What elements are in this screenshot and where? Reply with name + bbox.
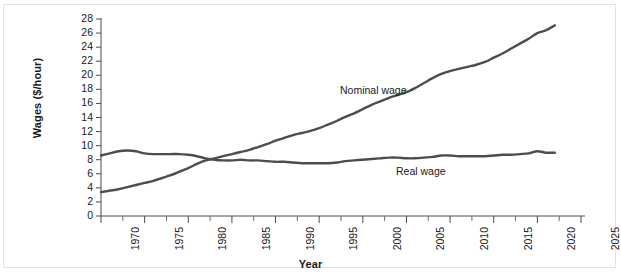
- y-tick-label: 28: [67, 12, 93, 24]
- y-tick-label: 18: [67, 82, 93, 94]
- y-axis-ticks: [96, 19, 101, 216]
- x-axis-ticks: [101, 216, 581, 223]
- y-axis-title: Wages ($/hour): [31, 33, 43, 163]
- series-label-nominal-wage: Nominal wage: [340, 84, 407, 96]
- y-tick-label: 2: [67, 195, 93, 207]
- y-tick-label: 10: [67, 139, 93, 151]
- x-tick-label: 1990: [304, 227, 316, 250]
- series-label-real-wage: Real wage: [396, 165, 446, 177]
- x-tick-label: 2010: [478, 227, 490, 250]
- x-tick-label: 2025: [609, 227, 621, 250]
- data-series-lines: [101, 25, 555, 192]
- x-tick-label: 2005: [435, 227, 447, 250]
- chart-figure: 0246810121416182022242628 19701975198019…: [0, 0, 621, 280]
- series-line-nominal-wage: [101, 25, 555, 192]
- x-tick-label: 1985: [260, 227, 272, 250]
- y-tick-label: 12: [67, 125, 93, 137]
- x-tick-label: 1980: [217, 227, 229, 250]
- x-tick-label: 2015: [522, 227, 534, 250]
- y-tick-label: 8: [67, 153, 93, 165]
- x-tick-label: 2020: [566, 227, 578, 250]
- x-axis-title: Year: [0, 258, 621, 270]
- y-tick-label: 0: [67, 209, 93, 221]
- y-tick-label: 14: [67, 111, 93, 123]
- x-tick-label: 1970: [129, 227, 141, 250]
- y-tick-label: 6: [67, 167, 93, 179]
- x-tick-label: 1975: [173, 227, 185, 250]
- x-tick-label: 2000: [391, 227, 403, 250]
- series-line-real-wage: [101, 151, 555, 164]
- y-tick-label: 20: [67, 68, 93, 80]
- x-tick-label: 1995: [348, 227, 360, 250]
- y-tick-label: 22: [67, 54, 93, 66]
- y-tick-label: 24: [67, 40, 93, 52]
- y-tick-label: 4: [67, 181, 93, 193]
- y-tick-label: 16: [67, 96, 93, 108]
- y-tick-label: 26: [67, 26, 93, 38]
